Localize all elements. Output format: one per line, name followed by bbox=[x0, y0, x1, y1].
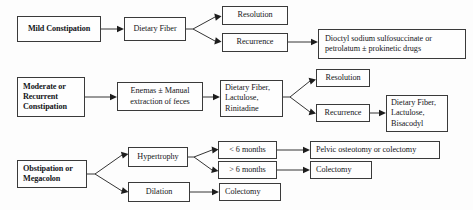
node-obstipation-megacolon[interactable]: Obstipation or Megacolon bbox=[17, 160, 87, 188]
edge-less6-to-pelvic bbox=[277, 147, 310, 153]
edge-moderate-to-enemas bbox=[85, 94, 117, 100]
edge-regimen-to-recurrence bbox=[290, 97, 316, 115]
node-fiber-lactulose-bisacodyl[interactable]: Dietary Fiber, Lactulose, Bisacodyl bbox=[386, 95, 448, 132]
node-dietary-fiber[interactable]: Dietary Fiber bbox=[124, 17, 186, 41]
node-dilation[interactable]: Dilation bbox=[128, 182, 190, 202]
edge-hypertrophy-to-less6 bbox=[188, 147, 219, 157]
node-colectomy-2[interactable]: Colectomy bbox=[219, 183, 281, 201]
edge-recurrence-to-dioctyl bbox=[288, 39, 318, 45]
edge-obstipation-to-dilation bbox=[95, 174, 129, 194]
flowchart-canvas: Mild Constipation Dietary Fiber Resoluti… bbox=[0, 0, 473, 210]
edge-hypertrophy-to-more6 bbox=[194, 157, 219, 173]
edge-fiber-to-resolution bbox=[186, 14, 222, 29]
node-recurrence-2[interactable]: Recurrence bbox=[316, 104, 370, 122]
node-colectomy-1[interactable]: Colectomy bbox=[310, 161, 372, 179]
edge-obstipation-to-hypertrophy bbox=[87, 152, 129, 174]
edge-enemas-to-regimen bbox=[203, 94, 220, 100]
node-pelvic-osteotomy-colectomy[interactable]: Pelvic osteotomy or colectomy bbox=[310, 141, 440, 159]
node-less-6-months[interactable]: < 6 months bbox=[218, 141, 277, 159]
node-moderate-recurrent-constipation[interactable]: Moderate or Recurrent Constipation bbox=[17, 77, 85, 117]
node-dioctyl-petrolatum[interactable]: Dioctyl sodium sulfosuccinate or petrola… bbox=[318, 29, 466, 59]
edge-dilation-to-colectomy bbox=[190, 189, 219, 195]
node-resolution-2[interactable]: Resolution bbox=[316, 69, 370, 87]
node-resolution-1[interactable]: Resolution bbox=[222, 6, 288, 25]
edge-regimen-to-resolution bbox=[283, 78, 316, 97]
node-recurrence-1[interactable]: Recurrence bbox=[222, 33, 288, 52]
node-mild-constipation[interactable]: Mild Constipation bbox=[17, 16, 101, 42]
edge-recurrence2-to-regimen2 bbox=[370, 110, 386, 116]
node-enemas-manual-extraction[interactable]: Enemas ± Manual extraction of feces bbox=[117, 82, 203, 111]
edge-mild-to-fiber bbox=[101, 26, 124, 32]
node-fiber-lactulose-rinitadine[interactable]: Dietary Fiber, Lactulose, Rinitadine bbox=[220, 80, 283, 117]
node-hypertrophy[interactable]: Hypertrophy bbox=[128, 147, 188, 167]
edge-more6-to-colectomy bbox=[277, 167, 310, 173]
edge-fiber-to-recurrence bbox=[193, 29, 222, 44]
node-more-6-months[interactable]: > 6 months bbox=[218, 161, 277, 179]
